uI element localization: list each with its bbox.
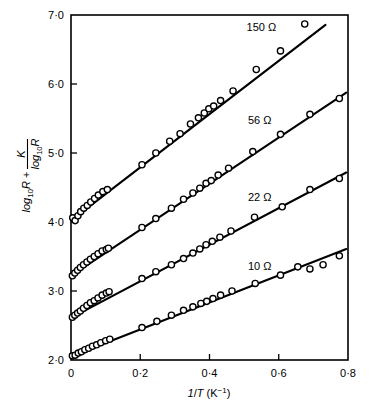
data-point-marker bbox=[229, 288, 235, 294]
data-point-marker bbox=[197, 246, 203, 252]
data-point-marker bbox=[250, 149, 256, 155]
y-tick-label: 3·0 bbox=[48, 285, 64, 297]
x-axis-title: 1/T (K−1) bbox=[188, 386, 231, 399]
data-point-marker bbox=[139, 224, 145, 230]
series-label-22-ohm: 22 Ω bbox=[248, 191, 272, 203]
data-point-marker bbox=[106, 289, 112, 295]
data-point-marker bbox=[295, 264, 301, 270]
data-point-marker bbox=[277, 131, 283, 137]
data-point-marker bbox=[168, 312, 174, 318]
data-point-marker bbox=[210, 295, 216, 301]
data-point-marker bbox=[307, 186, 313, 192]
data-point-marker bbox=[154, 318, 160, 324]
data-point-marker bbox=[215, 172, 221, 178]
data-point-marker bbox=[187, 121, 193, 127]
x-tick-label: 0·6 bbox=[271, 367, 287, 379]
data-point-marker bbox=[153, 215, 159, 221]
svg-text:log10R: log10R bbox=[29, 138, 44, 169]
data-point-marker bbox=[203, 242, 209, 248]
series-annotations: 150 Ω56 Ω22 Ω10 Ω bbox=[247, 21, 277, 272]
data-point-marker bbox=[230, 88, 236, 94]
data-point-marker bbox=[253, 66, 259, 72]
data-point-marker bbox=[336, 253, 342, 259]
y-tick-label: 7·0 bbox=[48, 9, 64, 21]
data-point-marker bbox=[251, 214, 257, 220]
series-data-markers bbox=[69, 21, 342, 359]
data-point-marker bbox=[153, 269, 159, 275]
data-point-marker bbox=[252, 280, 258, 286]
data-point-marker bbox=[211, 103, 217, 109]
data-point-marker bbox=[217, 292, 223, 298]
data-point-marker bbox=[195, 115, 201, 121]
data-point-marker bbox=[336, 95, 342, 101]
chart-figure: 2·03·04·05·06·07·0 00·20·40·60·8 150 Ω56… bbox=[0, 0, 373, 408]
data-point-marker bbox=[168, 262, 174, 268]
data-point-marker bbox=[225, 165, 231, 171]
data-point-marker bbox=[190, 190, 196, 196]
data-point-marker bbox=[336, 175, 342, 181]
y-tick-label: 4·0 bbox=[48, 216, 64, 228]
data-point-marker bbox=[139, 162, 145, 168]
data-point-marker bbox=[302, 21, 308, 27]
data-point-marker bbox=[307, 111, 313, 117]
series-label-56-ohm: 56 Ω bbox=[248, 114, 272, 126]
data-point-marker bbox=[105, 245, 111, 251]
data-point-marker bbox=[217, 234, 223, 240]
data-point-marker bbox=[168, 205, 174, 211]
data-point-marker bbox=[197, 185, 203, 191]
data-point-marker bbox=[204, 298, 210, 304]
data-point-marker bbox=[180, 255, 186, 261]
series-fit-lines bbox=[71, 25, 346, 357]
y-axis-tick-labels: 2·03·04·05·06·07·0 bbox=[48, 9, 64, 366]
x-axis-tick-labels: 00·20·40·60·8 bbox=[68, 367, 356, 379]
data-point-marker bbox=[228, 228, 234, 234]
series-label-10-ohm: 10 Ω bbox=[248, 260, 272, 272]
x-tick-label: 0·2 bbox=[132, 367, 148, 379]
x-tick-label: 0 bbox=[68, 367, 74, 379]
data-point-marker bbox=[180, 307, 186, 313]
data-point-marker bbox=[177, 131, 183, 137]
y-axis-title: log10R + K log10R bbox=[15, 138, 44, 212]
data-point-marker bbox=[167, 138, 173, 144]
data-point-marker bbox=[139, 275, 145, 281]
y-tick-label: 2·0 bbox=[48, 354, 64, 366]
data-point-marker bbox=[190, 250, 196, 256]
svg-text:K: K bbox=[15, 150, 27, 158]
y-tick-label: 6·0 bbox=[48, 78, 64, 90]
data-point-marker bbox=[180, 196, 186, 202]
data-point-marker bbox=[153, 150, 159, 156]
data-point-marker bbox=[209, 238, 215, 244]
data-point-marker bbox=[277, 48, 283, 54]
series-label-150-ohm: 150 Ω bbox=[247, 21, 277, 33]
data-point-marker bbox=[107, 336, 113, 342]
data-point-marker bbox=[320, 262, 326, 268]
y-tick-label: 5·0 bbox=[48, 147, 64, 159]
data-point-marker bbox=[217, 97, 223, 103]
svg-text:log10R +: log10R + bbox=[20, 171, 35, 212]
data-point-marker bbox=[277, 272, 283, 278]
data-point-marker bbox=[190, 304, 196, 310]
data-point-marker bbox=[279, 204, 285, 210]
data-point-marker bbox=[104, 186, 110, 192]
svg-text:1/T (K−1): 1/T (K−1) bbox=[188, 386, 231, 399]
x-tick-label: 0·4 bbox=[202, 367, 218, 379]
x-tick-label: 0·8 bbox=[340, 367, 356, 379]
arrhenius-scatter-chart: 2·03·04·05·06·07·0 00·20·40·60·8 150 Ω56… bbox=[0, 0, 373, 408]
data-point-marker bbox=[139, 324, 145, 330]
data-point-marker bbox=[307, 266, 313, 272]
data-point-marker bbox=[208, 178, 214, 184]
